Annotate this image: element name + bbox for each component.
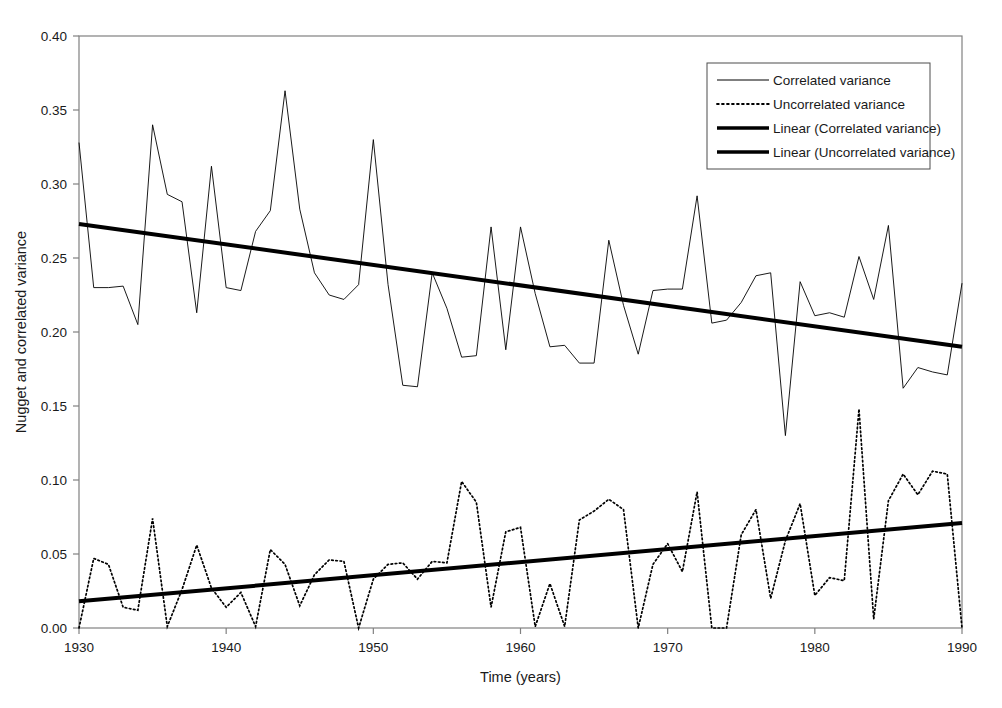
y-tick-label: 0.35 [41, 103, 67, 118]
legend-label: Linear (Uncorrelated variance) [773, 145, 955, 160]
legend-label: Uncorrelated variance [773, 97, 905, 112]
x-tick-label: 1990 [947, 640, 977, 655]
y-tick-label: 0.30 [41, 177, 67, 192]
y-tick-label: 0.00 [41, 621, 67, 636]
x-tick-label: 1960 [505, 640, 535, 655]
x-tick-label: 1950 [358, 640, 388, 655]
y-tick-label: 0.05 [41, 547, 67, 562]
y-axis-title: Nugget and correlated variance [13, 231, 29, 433]
chart-container: 1930194019501960197019801990 0.000.050.1… [0, 0, 1002, 708]
y-tick-label: 0.40 [41, 29, 67, 44]
x-axis-title: Time (years) [480, 669, 561, 685]
y-tick-label: 0.20 [41, 325, 67, 340]
y-tick-label: 0.25 [41, 251, 67, 266]
x-tick-label: 1980 [800, 640, 830, 655]
legend-label: Linear (Correlated variance) [773, 121, 941, 136]
x-tick-label: 1930 [64, 640, 94, 655]
y-tick-label: 0.10 [41, 473, 67, 488]
x-tick-label: 1940 [211, 640, 241, 655]
variance-time-series-chart: 1930194019501960197019801990 0.000.050.1… [0, 0, 1002, 708]
y-tick-label: 0.15 [41, 399, 67, 414]
x-tick-label: 1970 [653, 640, 683, 655]
chart-legend: Correlated varianceUncorrelated variance… [707, 63, 955, 169]
legend-label: Correlated variance [773, 73, 891, 88]
